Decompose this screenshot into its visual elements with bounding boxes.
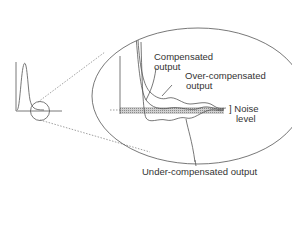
noise-label-line2: level bbox=[229, 114, 259, 124]
overview-plot bbox=[16, 62, 62, 121]
over-compensated-label: Over-compensated output bbox=[185, 71, 266, 91]
compensated-leader bbox=[146, 68, 156, 100]
over-compensated-leader bbox=[162, 85, 172, 96]
under-compensated-leader bbox=[186, 119, 195, 162]
compensated-label: Compensated output bbox=[154, 52, 213, 72]
over-compensated-label-line2: output bbox=[185, 81, 266, 91]
overview-peak bbox=[17, 63, 44, 110]
zoom-connectors bbox=[38, 52, 150, 152]
noise-level-label: ] Noise level bbox=[229, 104, 259, 124]
under-compensated-label: Under-compensated output bbox=[142, 167, 257, 177]
